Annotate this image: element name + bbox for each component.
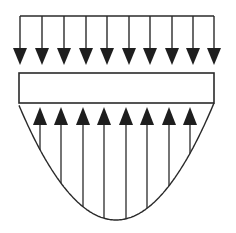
arrow-up-icon	[140, 107, 154, 125]
arrow-up-icon	[97, 107, 111, 125]
load-diagram	[0, 0, 236, 233]
arrow-up-icon	[33, 107, 47, 125]
arrow-up-icon	[119, 107, 133, 125]
arrow-down-icon	[100, 48, 114, 65]
arrow-up-icon	[54, 107, 68, 125]
arrow-down-icon	[143, 48, 157, 65]
arrow-down-icon	[186, 48, 200, 65]
arrow-down-icon	[122, 48, 136, 65]
arrow-down-icon	[207, 48, 221, 65]
uniform-load-arrows	[13, 16, 221, 65]
arrow-down-icon	[165, 48, 179, 65]
arrow-up-icon	[183, 107, 197, 125]
arrow-down-icon	[13, 48, 27, 65]
arrow-down-icon	[57, 48, 71, 65]
arrow-up-icon	[76, 107, 90, 125]
arrow-down-icon	[35, 48, 49, 65]
beam-rectangle	[19, 73, 214, 103]
reaction-arrows	[33, 107, 197, 219]
arrow-up-icon	[162, 107, 176, 125]
arrow-down-icon	[79, 48, 93, 65]
